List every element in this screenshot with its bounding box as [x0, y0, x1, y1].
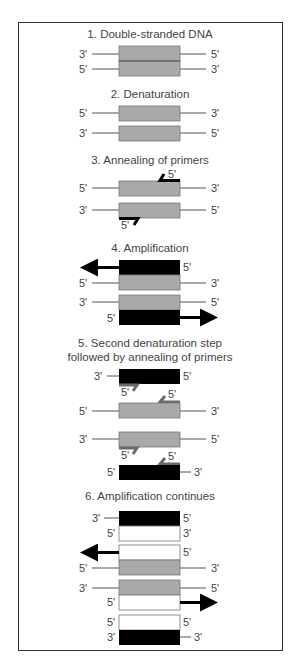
- svg-text:3': 3': [79, 296, 87, 308]
- step-6: 6. Amplification continues 3' 5' 5' 3' 5…: [79, 490, 219, 645]
- svg-text:3': 3': [211, 182, 219, 194]
- svg-text:3': 3': [79, 582, 87, 594]
- step-2: 2. Denaturation 5' 3' 3' 5': [79, 88, 219, 141]
- step-1: 1. Double-stranded DNA 3' 5' 5' 3': [79, 28, 219, 76]
- svg-text:3': 3': [79, 204, 87, 216]
- svg-text:5': 5': [211, 433, 219, 445]
- svg-text:5': 5': [79, 277, 87, 289]
- end-label: 3': [211, 63, 219, 75]
- svg-text:5': 5': [183, 616, 191, 628]
- svg-text:5': 5': [211, 296, 219, 308]
- svg-text:5': 5': [121, 386, 129, 398]
- svg-text:5': 5': [107, 527, 115, 539]
- svg-text:3': 3': [183, 527, 191, 539]
- svg-text:5': 5': [107, 466, 115, 478]
- svg-text:3': 3': [211, 107, 219, 119]
- svg-text:5': 5': [121, 219, 129, 231]
- step-2-title: 2. Denaturation: [111, 88, 190, 100]
- step-6-title: 6. Amplification continues: [85, 490, 215, 502]
- svg-text:5': 5': [107, 616, 115, 628]
- svg-text:3': 3': [194, 466, 202, 478]
- end-label: 5': [211, 48, 219, 60]
- svg-text:5': 5': [183, 261, 191, 273]
- svg-text:5': 5': [183, 370, 191, 382]
- svg-text:3': 3': [79, 433, 87, 445]
- svg-text:5': 5': [107, 312, 115, 324]
- svg-text:3': 3': [211, 405, 219, 417]
- step-5-title-line2: followed by annealing of primers: [68, 351, 233, 363]
- strand-gray: [119, 61, 180, 76]
- svg-text:3': 3': [211, 277, 219, 289]
- step-4-title: 4. Amplification: [111, 242, 188, 254]
- step-3-title: 3. Annealing of primers: [91, 154, 209, 166]
- svg-text:3': 3': [194, 631, 202, 643]
- svg-text:5': 5': [183, 546, 191, 558]
- svg-text:3': 3': [79, 127, 87, 139]
- svg-text:5': 5': [79, 107, 87, 119]
- svg-text:5': 5': [211, 582, 219, 594]
- end-label: 3': [79, 48, 87, 60]
- svg-text:3': 3': [92, 512, 100, 524]
- step-5-title-line1: 5. Second denaturation step: [78, 337, 222, 349]
- svg-text:5': 5': [79, 562, 87, 574]
- svg-text:3': 3': [107, 631, 115, 643]
- svg-text:5': 5': [211, 127, 219, 139]
- svg-text:5': 5': [183, 512, 191, 524]
- step-5: 5. Second denaturation step followed by …: [68, 337, 233, 480]
- strand-gray: [119, 46, 180, 61]
- step-4: 4. Amplification 5' 5' 3' 3' 5' 5': [79, 242, 219, 325]
- step-1-title: 1. Double-stranded DNA: [87, 28, 213, 40]
- svg-text:5': 5': [79, 182, 87, 194]
- svg-text:5': 5': [107, 596, 115, 608]
- svg-text:5': 5': [79, 405, 87, 417]
- svg-text:5': 5': [168, 450, 176, 462]
- svg-text:5': 5': [168, 388, 176, 400]
- svg-text:3': 3': [211, 562, 219, 574]
- pcr-diagram: 1. Double-stranded DNA 3' 5' 5' 3' 2. De…: [0, 0, 294, 658]
- step-3: 3. Annealing of primers 5' 5' 5' 3' 3' 5…: [79, 154, 219, 231]
- svg-text:5': 5': [121, 449, 129, 461]
- end-label: 5': [79, 63, 87, 75]
- svg-text:5': 5': [168, 168, 176, 180]
- svg-text:5': 5': [211, 204, 219, 216]
- svg-text:3': 3': [94, 370, 102, 382]
- strand-black: [119, 260, 180, 275]
